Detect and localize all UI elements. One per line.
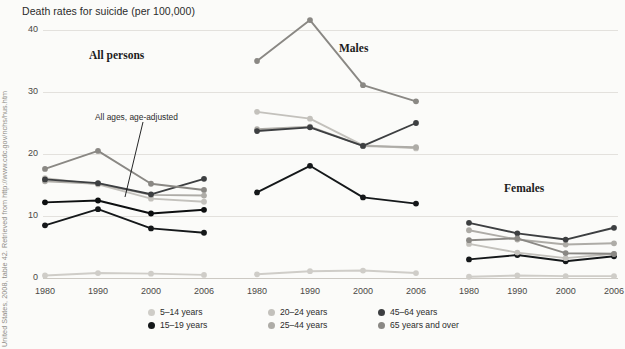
plot-area: 010203040 All personsMalesFemales All ag… [14,22,620,285]
series-lines [14,22,620,285]
data-point [42,222,48,228]
panel-title-males: Males [339,42,368,54]
data-point [563,250,569,256]
line-series [45,273,204,275]
data-point [42,166,48,172]
legend-item[interactable]: 45–64 years [378,307,437,317]
chart-title: Death rates for suicide (per 100,000) [22,5,195,17]
data-point [254,271,260,277]
data-point [360,195,366,201]
data-point [42,177,48,183]
data-point [201,187,207,193]
data-point [413,270,419,276]
legend-color-dot [148,322,155,329]
data-point [307,124,313,130]
panel-females [466,220,617,280]
data-point [413,120,419,126]
line-series [257,20,416,101]
x-tick-label: 1990 [88,286,108,296]
data-point [611,251,617,257]
line-series [469,223,614,240]
x-tick-label: 1980 [35,286,55,296]
data-point [360,268,366,274]
panel-all-persons [42,148,207,278]
legend-item[interactable]: 15–19 years [148,320,207,330]
legend-label: 45–64 years [390,307,437,317]
data-point [148,226,154,232]
data-point [466,227,472,233]
data-point [148,181,154,187]
line-series [45,201,204,214]
legend-color-dot [148,309,155,316]
data-point [514,235,520,241]
data-point [307,268,313,274]
all-ages-annotation: All ages, age-adjusted [95,112,178,122]
x-tick-label: 1980 [459,286,479,296]
legend-label: 20–24 years [280,307,327,317]
data-point [201,176,207,182]
x-tick-label: 2000 [556,286,576,296]
data-point [360,82,366,88]
data-point [514,250,520,256]
legend-color-dot [378,309,385,316]
data-point [413,98,419,104]
legend-color-dot [268,322,275,329]
data-point [95,206,101,212]
data-point [514,230,520,236]
x-tick-label: 2000 [141,286,161,296]
x-tick-label: 1990 [300,286,320,296]
legend-item[interactable]: 20–24 years [268,307,327,317]
suicide-death-rates-chart: United States, 2008, table 42. Retrieved… [0,0,625,349]
x-tick-label: 2006 [194,286,214,296]
line-series [469,238,614,254]
data-point [148,271,154,277]
data-point [201,193,207,199]
line-series [257,166,416,204]
legend: 5–14 years15–19 years20–24 years25–44 ye… [0,303,625,343]
data-point [42,273,48,279]
data-point [611,225,617,231]
data-point [201,207,207,213]
data-point [148,211,154,217]
panel-males [254,17,419,277]
legend-color-dot [268,309,275,316]
x-tick-label: 1980 [247,286,267,296]
data-point [466,237,472,243]
line-series [257,271,416,275]
data-point [254,190,260,196]
x-tick-label: 2006 [406,286,426,296]
data-point [563,237,569,243]
data-point [307,163,313,169]
data-point [611,240,617,246]
panel-title-all-persons: All persons [89,49,144,61]
data-point [413,144,419,150]
panel-title-females: Females [504,182,544,194]
line-series [45,151,204,190]
data-point [201,272,207,278]
data-point [563,242,569,248]
line-series [469,276,614,277]
data-point [254,128,260,134]
legend-label: 25–44 years [280,320,327,330]
data-point [254,109,260,115]
data-point [466,274,472,280]
data-point [148,191,154,197]
line-series [45,209,204,233]
data-point [254,58,260,64]
data-point [95,270,101,276]
data-point [466,220,472,226]
data-point [466,257,472,263]
x-tick-label: 2000 [353,286,373,296]
legend-item[interactable]: 65 years and over [378,320,459,330]
x-tick-label: 2006 [604,286,624,296]
data-point [42,199,48,205]
data-point [514,273,520,279]
data-point [611,273,617,279]
x-axis-ticks: 1980199020002006198019902000200619801990… [14,286,620,302]
legend-item[interactable]: 25–44 years [268,320,327,330]
legend-item[interactable]: 5–14 years [148,307,203,317]
data-point [201,199,207,205]
data-point [95,148,101,154]
data-point [413,201,419,207]
source-credit: United States, 2008, table 42. Retrieved… [0,0,11,349]
